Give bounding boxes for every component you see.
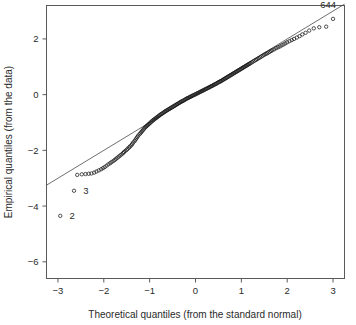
x-tick-label: −3	[53, 285, 64, 296]
point-annotation-label: 644	[320, 0, 336, 10]
data-point	[80, 173, 83, 176]
y-tick-label: −4	[28, 201, 39, 212]
qq-plot-figure: −3−2−10123 20−2−4−6 64432 Theoretical qu…	[0, 0, 356, 325]
data-point	[59, 214, 62, 217]
x-tick-label: 0	[193, 285, 198, 296]
data-point	[308, 29, 311, 32]
point-annotation-label: 2	[69, 210, 74, 221]
data-point	[331, 17, 334, 20]
x-tick-label: 1	[239, 285, 244, 296]
data-point	[301, 33, 304, 36]
y-axis-ticks	[43, 39, 47, 262]
y-axis-title: Empirical quantiles (from the data)	[3, 66, 14, 218]
x-axis-title: Theoretical quantiles (from the standard…	[88, 309, 301, 320]
plot-frame-group	[47, 6, 345, 279]
point-annotation-label: 3	[83, 185, 88, 196]
y-tick-label: −2	[28, 145, 39, 156]
data-point	[312, 27, 315, 30]
x-tick-label: 2	[285, 285, 290, 296]
y-tick-label: 0	[33, 89, 38, 100]
data-point	[72, 189, 75, 192]
data-point	[318, 26, 321, 29]
data-point	[304, 31, 307, 34]
data-point	[76, 173, 79, 176]
x-tick-label: −2	[98, 285, 109, 296]
x-axis-tick-labels: −3−2−10123	[53, 285, 336, 296]
data-points-group	[59, 17, 335, 217]
plot-frame	[47, 6, 345, 279]
x-axis-ticks	[58, 279, 333, 283]
y-tick-label: 2	[33, 33, 38, 44]
x-tick-label: −1	[144, 285, 155, 296]
data-point	[324, 25, 327, 28]
y-axis-tick-labels: 20−2−4−6	[28, 33, 39, 267]
qq-plot-canvas: −3−2−10123 20−2−4−6 64432 Theoretical qu…	[0, 0, 356, 325]
y-tick-label: −6	[28, 256, 39, 267]
x-tick-label: 3	[330, 285, 335, 296]
